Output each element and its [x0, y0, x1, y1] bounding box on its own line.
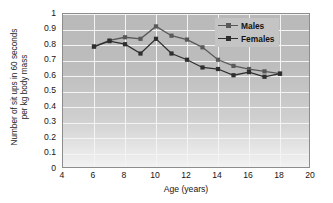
x-tick-label: 8: [111, 171, 137, 180]
data-point-females-13: [200, 65, 204, 69]
data-point-females-6: [92, 44, 96, 48]
legend-label-males: Males: [241, 21, 264, 31]
data-point-females-11: [169, 51, 173, 55]
x-tick-label: 20: [297, 171, 323, 180]
legend-entry-males: Males: [218, 20, 275, 31]
y-tick-label: 0.8: [12, 40, 56, 49]
x-tick-label: 10: [142, 171, 168, 180]
y-tick-label: 0.3: [12, 117, 56, 126]
data-point-males-8: [123, 35, 127, 39]
y-tick-label: 1: [12, 9, 56, 18]
data-point-females-16: [247, 70, 251, 74]
y-tick-label: 0.1: [12, 148, 56, 157]
sit-ups-line-chart: Number of sit ups in 60 seconds per kg b…: [0, 0, 333, 203]
data-point-females-10: [154, 37, 158, 41]
x-tick-label: 6: [80, 171, 106, 180]
legend-swatch-females: [218, 34, 238, 43]
data-point-males-10: [154, 24, 158, 28]
y-tick-label: 0.6: [12, 71, 56, 80]
x-tick-label: 4: [49, 171, 75, 180]
legend-marker-males: [226, 23, 231, 28]
data-point-females-8: [123, 42, 127, 46]
data-point-females-9: [138, 51, 142, 55]
plot-area: Males Females: [62, 13, 310, 168]
legend-entry-females: Females: [218, 33, 275, 44]
x-tick-label: 16: [235, 171, 261, 180]
y-tick-label: 0.9: [12, 24, 56, 33]
data-point-females-7: [107, 39, 111, 43]
x-tick-label: 18: [266, 171, 292, 180]
x-tick-label: 12: [173, 171, 199, 180]
data-point-males-14: [216, 58, 220, 62]
data-point-males-9: [138, 37, 142, 41]
data-point-females-17: [262, 75, 266, 79]
legend-label-females: Females: [241, 34, 275, 44]
data-point-males-17: [262, 69, 266, 73]
data-point-females-14: [216, 67, 220, 71]
y-tick-label: 0.2: [12, 133, 56, 142]
data-point-males-15: [231, 64, 235, 68]
y-tick-label: 0.4: [12, 102, 56, 111]
data-point-males-12: [185, 37, 189, 41]
data-point-males-11: [169, 34, 173, 38]
data-point-males-13: [200, 45, 204, 49]
data-point-females-18: [278, 72, 282, 76]
legend: Males Females: [215, 18, 279, 47]
data-point-females-15: [231, 73, 235, 77]
x-axis-title: Age (years): [62, 184, 310, 194]
legend-swatch-males: [218, 21, 238, 30]
legend-marker-females: [226, 36, 231, 41]
data-point-females-12: [185, 58, 189, 62]
x-tick-label: 14: [204, 171, 230, 180]
y-tick-label: 0.5: [12, 86, 56, 95]
y-tick-label: 0.7: [12, 55, 56, 64]
